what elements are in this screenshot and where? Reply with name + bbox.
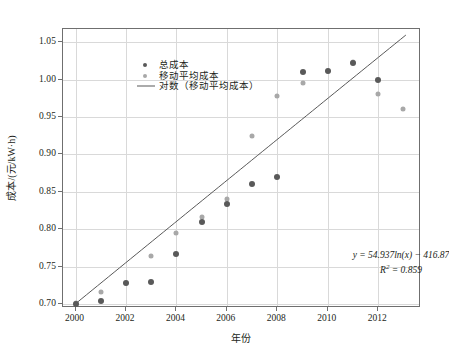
gridline-vertical — [126, 29, 127, 306]
y-axis-tick-label: 0.70 — [0, 298, 56, 308]
gridline-vertical — [277, 29, 278, 306]
x-axis-tick-label: 2006 — [216, 313, 235, 323]
x-axis-tick-label: 2012 — [368, 313, 387, 323]
data-point-moving-average — [401, 106, 406, 111]
x-axis-tick-mark — [125, 307, 126, 311]
data-point-total-cost — [148, 279, 154, 285]
x-axis-tick-label: 2008 — [267, 313, 286, 323]
y-axis-tick-label: 0.95 — [0, 111, 56, 121]
plot-area: 总成本移动平均成本对数（移动平均成本） y = 54.937ln(x) − 41… — [62, 28, 420, 307]
data-point-total-cost — [123, 280, 129, 286]
x-axis-tick-mark — [226, 307, 227, 311]
data-point-moving-average — [300, 80, 305, 85]
legend-item[interactable]: 总成本 — [137, 60, 259, 71]
r-squared-value: R2 = 0.859 — [353, 261, 449, 276]
legend-label: 总成本 — [157, 60, 189, 71]
x-axis-title: 年份 — [231, 330, 251, 345]
legend-label: 移动平均成本 — [157, 71, 219, 82]
data-point-total-cost — [73, 301, 79, 307]
legend-item[interactable]: 移动平均成本 — [137, 71, 259, 82]
x-axis-tick-mark — [327, 307, 328, 311]
data-point-moving-average — [98, 290, 103, 295]
data-point-moving-average — [149, 253, 154, 258]
legend-item[interactable]: 对数（移动平均成本） — [137, 81, 259, 92]
legend-dot-icon — [143, 63, 147, 67]
legend-line-icon — [137, 86, 155, 87]
y-axis-tick-label: 0.85 — [0, 186, 56, 196]
data-point-moving-average — [250, 133, 255, 138]
y-axis-tick-label: 0.75 — [0, 261, 56, 271]
x-axis-tick-label: 2002 — [116, 313, 135, 323]
regression-equation: y = 54.937ln(x) − 416.87 — [353, 249, 449, 261]
legend-dot-icon — [143, 74, 147, 78]
data-point-moving-average — [376, 91, 381, 96]
y-axis-tick-label: 1.05 — [0, 36, 56, 46]
gridline-horizontal — [63, 42, 419, 43]
regression-annotation: y = 54.937ln(x) − 416.87 R2 = 0.859 — [353, 249, 449, 276]
chart-legend: 总成本移动平均成本对数（移动平均成本） — [137, 60, 259, 92]
gridline-horizontal — [63, 304, 419, 305]
x-axis-tick-label: 2010 — [317, 313, 336, 323]
legend-marker-key — [137, 71, 157, 82]
gridline-horizontal — [63, 229, 419, 230]
data-point-total-cost — [375, 77, 381, 83]
data-point-total-cost — [249, 181, 255, 187]
data-point-total-cost — [98, 298, 104, 304]
data-point-moving-average — [174, 231, 179, 236]
legend-line-key — [137, 81, 157, 92]
gridline-horizontal — [63, 154, 419, 155]
x-axis-tick-label: 2000 — [65, 313, 84, 323]
x-axis-tick-label: 2004 — [166, 313, 185, 323]
data-point-moving-average — [275, 94, 280, 99]
x-axis-tick-mark — [75, 307, 76, 311]
data-point-total-cost — [350, 60, 356, 66]
data-point-total-cost — [173, 251, 179, 257]
legend-marker-key — [137, 60, 157, 71]
y-axis-tick-label: 0.80 — [0, 223, 56, 233]
data-point-total-cost — [325, 68, 331, 74]
y-axis-tick-label: 1.00 — [0, 74, 56, 84]
x-axis-tick-mark — [377, 307, 378, 311]
r-squared-number: = 0.859 — [389, 265, 422, 275]
data-point-total-cost — [199, 219, 205, 225]
gridline-vertical — [76, 29, 77, 306]
gridline-horizontal — [63, 117, 419, 118]
y-axis-tick-label: 0.90 — [0, 148, 56, 158]
gridline-horizontal — [63, 192, 419, 193]
data-point-total-cost — [224, 201, 230, 207]
x-axis-tick-mark — [175, 307, 176, 311]
legend-label: 对数（移动平均成本） — [157, 81, 259, 92]
data-point-total-cost — [274, 174, 280, 180]
x-axis-tick-mark — [276, 307, 277, 311]
data-point-total-cost — [300, 69, 306, 75]
